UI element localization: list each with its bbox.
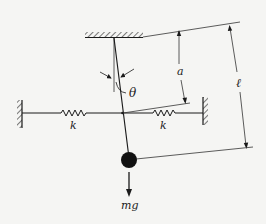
- diagram-svg: θ k k a: [0, 0, 266, 224]
- pendulum-diagram: θ k k a: [0, 0, 266, 224]
- weight-arrow: [126, 172, 132, 197]
- spring-right: [122, 110, 203, 116]
- dimension-l-label: ℓ: [236, 76, 241, 90]
- pendulum-rod: [114, 38, 129, 158]
- weight-label: mg: [121, 199, 138, 212]
- spring-left-label: k: [70, 119, 77, 132]
- spring-left: [22, 110, 122, 116]
- left-wall: [17, 100, 22, 128]
- bob-reference-line: [136, 147, 253, 159]
- right-wall: [203, 97, 208, 125]
- ceiling-support: [85, 32, 143, 38]
- attachment-reference-line: [123, 103, 190, 113]
- ceiling-reference-line: [143, 22, 240, 37]
- spring-right-label: k: [160, 119, 167, 132]
- pendulum-bob: [121, 152, 137, 168]
- angle-theta-label: θ: [129, 86, 137, 100]
- dimension-a-label: a: [177, 65, 184, 78]
